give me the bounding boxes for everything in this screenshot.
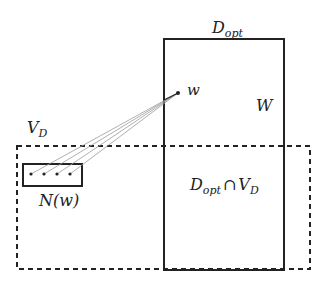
label-v-d: VD [27, 118, 48, 140]
neighbor-points [29, 172, 71, 175]
label-w: w [187, 81, 200, 99]
diagram-canvas: Dopt w W VD N(w) Dopt∩VD [0, 0, 328, 286]
label-intersection: Dopt∩VD [189, 175, 259, 197]
edges [31, 93, 178, 174]
label-d-opt: Dopt [211, 18, 243, 40]
label-n-w: N(w) [38, 191, 79, 210]
edge-inside [164, 93, 178, 100]
w-point [176, 91, 180, 95]
label-W: W [256, 96, 274, 115]
d-opt-region [164, 39, 284, 270]
